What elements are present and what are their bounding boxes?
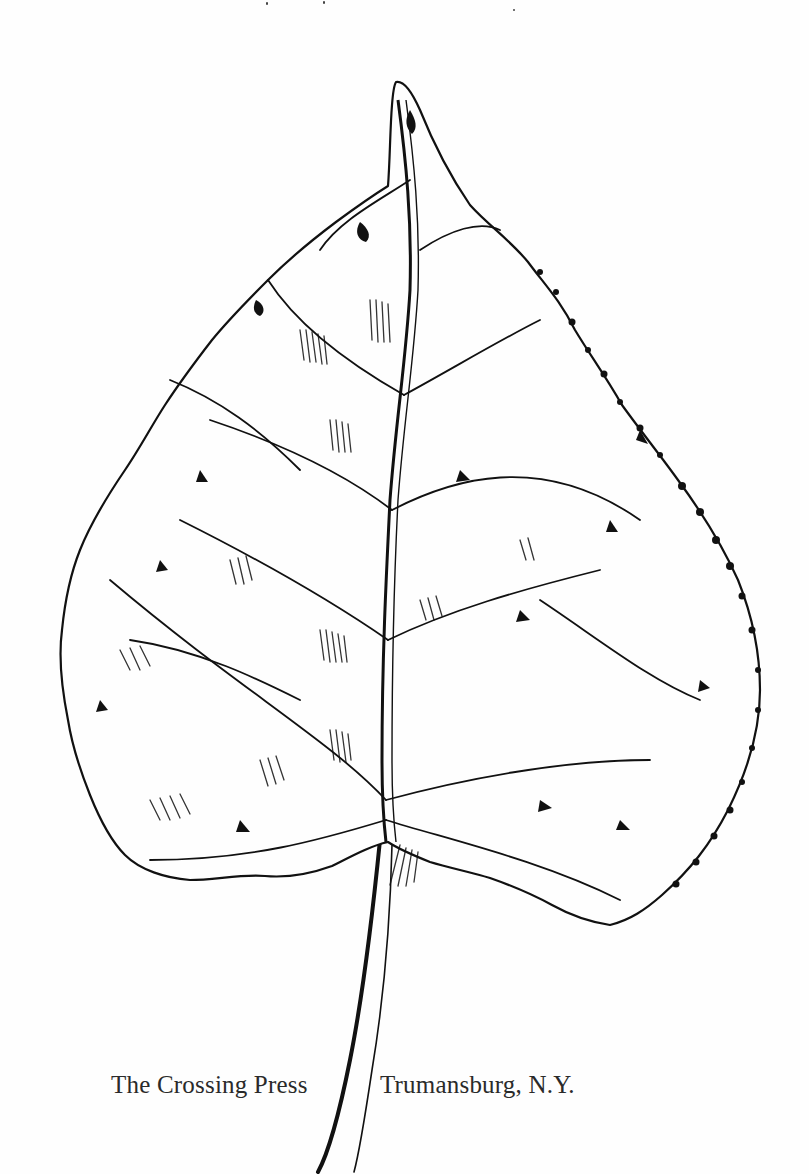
title-page: The Crossing Press Trumansburg, N.Y. <box>0 0 809 1174</box>
leaf-illustration <box>0 0 809 1174</box>
publisher-location: Trumansburg, N.Y. <box>380 1071 575 1099</box>
leaf-stem <box>318 840 392 1172</box>
publisher-name: The Crossing Press <box>111 1071 308 1099</box>
